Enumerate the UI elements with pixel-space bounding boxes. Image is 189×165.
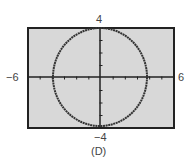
calculator-graph: [0, 0, 189, 165]
graph-screen: [28, 28, 174, 128]
